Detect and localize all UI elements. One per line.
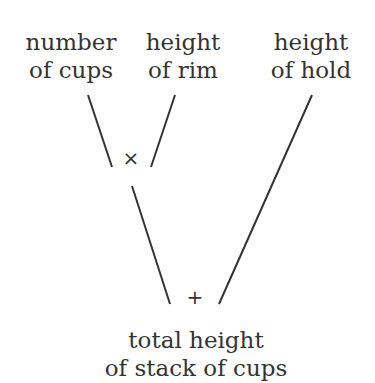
- add-operator: +: [187, 285, 204, 309]
- edge-cups-to-multiply: [88, 95, 112, 167]
- node-label-line2: of stack of cups: [105, 354, 287, 382]
- edge-product-to-add: [132, 186, 170, 304]
- node-label-line1: total height: [105, 326, 287, 354]
- node-total-height: total height of stack of cups: [105, 326, 287, 382]
- edge-rim-to-multiply: [151, 95, 175, 167]
- edge-hold-to-add: [219, 95, 312, 304]
- multiply-operator: ×: [123, 146, 140, 170]
